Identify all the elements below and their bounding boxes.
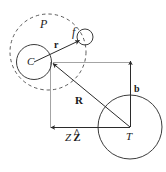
hat-accent: ^ <box>74 128 80 138</box>
axial-distance-label: Z <box>65 131 71 143</box>
figure-diagram: P C f T r R b Z^Z <box>0 0 166 172</box>
R-vector-arrow <box>53 64 130 128</box>
zzhat-vector-label: Z^Z <box>65 132 80 143</box>
axial-unit-vector-label: ^Z <box>73 132 80 143</box>
R-vector-label: R <box>75 95 83 106</box>
target-label: T <box>126 131 132 142</box>
fragment-label: f <box>72 26 75 38</box>
figure-canvas <box>0 0 166 172</box>
b-vector-label: b <box>134 84 140 94</box>
r-vector-label: r <box>54 40 58 50</box>
projectile-label: P <box>40 18 47 30</box>
fragment-circle <box>77 29 93 45</box>
core-label: C <box>27 56 34 67</box>
